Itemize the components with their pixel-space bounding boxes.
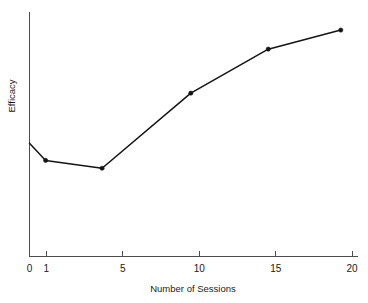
data-point-marker xyxy=(100,166,104,170)
x-axis-title: Number of Sessions xyxy=(150,283,236,294)
data-point-marker xyxy=(266,47,270,51)
x-tick-label-10: 10 xyxy=(194,263,206,274)
x-tick-label-1: 1 xyxy=(44,263,50,274)
data-point-marker xyxy=(339,28,343,32)
y-axis-title: Efficacy xyxy=(6,79,17,112)
x-axis-tick-labels: 0 1 5 10 15 20 xyxy=(27,263,358,274)
data-point-marker xyxy=(189,91,193,95)
x-tick-label-5: 5 xyxy=(120,263,126,274)
data-point-marker xyxy=(44,158,48,162)
efficacy-data-markers xyxy=(44,28,343,170)
x-tick-label-20: 20 xyxy=(347,263,359,274)
x-tick-label-15: 15 xyxy=(270,263,282,274)
efficacy-line-chart-figure: 0 1 5 10 15 20 Number of Sessions Effica… xyxy=(0,0,368,303)
x-tick-label-0: 0 xyxy=(27,263,33,274)
x-axis-tick-marks xyxy=(30,251,353,257)
efficacy-data-line xyxy=(30,30,341,168)
chart-canvas: 0 1 5 10 15 20 Number of Sessions Effica… xyxy=(0,0,368,303)
